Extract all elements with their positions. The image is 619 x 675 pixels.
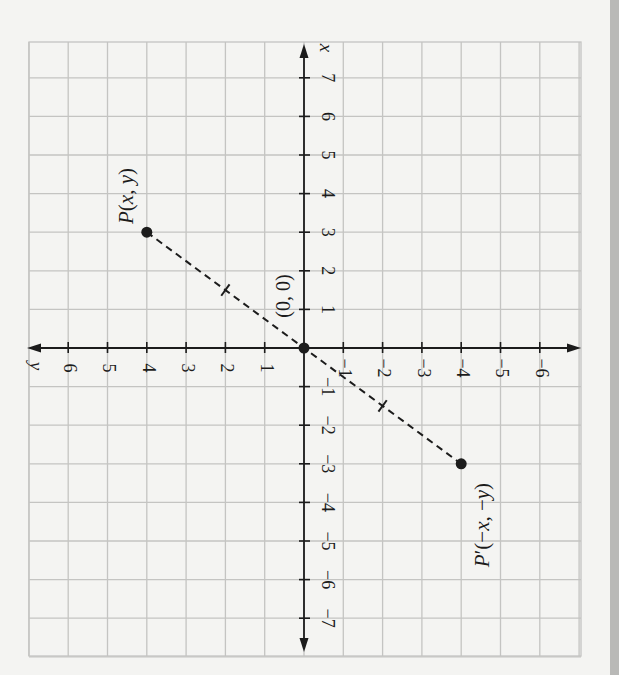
x-tick-label: −2 (318, 416, 338, 435)
x-axis-label: x (316, 43, 337, 53)
x-tick-label: 5 (318, 151, 338, 160)
point-p-prime-label: P′(−x, −y) (470, 483, 494, 568)
y-tick-label: 6 (60, 364, 80, 373)
origin-label: (0, 0) (272, 274, 295, 317)
y-tick-label: −2 (374, 358, 394, 377)
x-tick-label: 1 (318, 305, 338, 314)
x-axis-down-arrow-icon (300, 638, 309, 652)
y-tick-label: 2 (217, 364, 237, 373)
y-tick-label: 4 (139, 364, 159, 373)
x-tick-label: −5 (318, 531, 338, 550)
x-tick-label: −1 (318, 377, 338, 396)
x-tick-label: −4 (318, 493, 338, 512)
x-tick-label: −6 (318, 570, 338, 589)
y-tick-label: −4 (453, 358, 473, 377)
y-tick-label: −6 (532, 358, 552, 377)
point-o (299, 343, 310, 354)
coordinate-plane: −7−6−5−4−3−2−11234567−6−5−4−3−2−1123456x… (0, 0, 619, 675)
y-tick-label: 1 (257, 364, 277, 373)
x-tick-label: 2 (318, 266, 338, 275)
y-tick-label: −5 (492, 358, 512, 377)
point-p-label: P(x, y) (114, 168, 138, 225)
x-tick-label: 7 (318, 73, 338, 82)
y-axis-label: y (26, 360, 47, 371)
x-tick-label: −7 (318, 609, 338, 628)
x-tick-label: 3 (318, 228, 338, 237)
y-tick-label: −1 (335, 358, 355, 377)
y-tick-label: 5 (99, 364, 119, 373)
x-tick-label: −3 (318, 454, 338, 473)
y-tick-label: −3 (414, 358, 434, 377)
x-tick-label: 4 (318, 189, 338, 198)
x-axis-up-arrow-icon (300, 44, 309, 58)
point-p (141, 227, 152, 238)
point-p-prime (456, 458, 467, 469)
x-tick-label: 6 (318, 112, 338, 121)
y-tick-label: 3 (178, 364, 198, 373)
